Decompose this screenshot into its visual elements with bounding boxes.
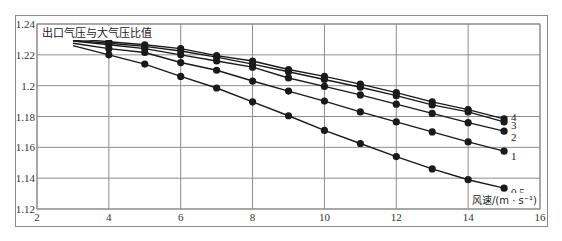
chart-title: 出口气压与大气压比值 (42, 26, 152, 40)
y-axis-ticks: 1.121.141.161.181.21.221.24 (16, 18, 36, 215)
data-point-marker (500, 185, 507, 192)
data-point-marker (285, 112, 292, 119)
data-point-marker (321, 127, 328, 134)
data-point-marker (393, 153, 400, 160)
x-tick-label: 6 (178, 211, 184, 223)
data-point-marker (357, 84, 364, 91)
data-point-marker (357, 91, 364, 98)
data-point-marker (177, 59, 184, 66)
data-point-marker (393, 92, 400, 99)
data-point-marker (465, 138, 472, 145)
data-point-marker (285, 87, 292, 94)
x-axis-label: 风速/(m · s⁻¹) (472, 195, 537, 206)
y-tick-label: 1.18 (16, 111, 36, 123)
data-point-marker (321, 97, 328, 104)
series-line (73, 43, 504, 151)
y-tick-label: 1.16 (16, 141, 36, 153)
data-point-marker (213, 57, 220, 64)
x-tick-label: 14 (463, 211, 475, 223)
data-point-marker (141, 60, 148, 67)
series-group (73, 38, 508, 192)
data-point-marker (321, 83, 328, 90)
data-point-marker (357, 108, 364, 115)
series-label: 3 (511, 119, 517, 131)
y-tick-label: 1.12 (16, 203, 35, 215)
data-point-marker (213, 67, 220, 74)
series-labels: 43210.5 (511, 111, 525, 198)
data-point-marker (429, 165, 436, 172)
data-point-marker (177, 73, 184, 80)
x-tick-label: 4 (106, 211, 112, 223)
data-point-marker (500, 148, 507, 155)
data-point-marker (213, 84, 220, 91)
data-point-marker (500, 118, 507, 125)
y-tick-label: 1.2 (21, 80, 35, 92)
x-tick-label: 2 (34, 211, 40, 223)
data-point-marker (465, 119, 472, 126)
x-tick-label: 12 (391, 211, 402, 223)
data-point-marker (285, 74, 292, 81)
y-tick-label: 1.22 (16, 49, 35, 61)
data-point-marker (393, 118, 400, 125)
data-point-marker (249, 98, 256, 105)
y-tick-label: 1.24 (16, 18, 36, 30)
data-point-marker (141, 49, 148, 56)
data-point-marker (465, 108, 472, 115)
chart-canvas: 1.121.141.161.181.21.221.24 246810121416… (0, 0, 562, 241)
data-point-marker (249, 64, 256, 71)
series-label: 2 (511, 131, 516, 143)
data-point-marker (393, 101, 400, 108)
x-tick-label: 16 (535, 211, 547, 223)
x-axis-ticks: 246810121416 (34, 211, 546, 223)
series-label: 1 (511, 150, 516, 162)
data-point-marker (429, 128, 436, 135)
data-point-marker (249, 77, 256, 84)
data-point-marker (357, 140, 364, 147)
data-point-marker (429, 110, 436, 117)
data-point-marker (429, 101, 436, 108)
data-point-marker (321, 76, 328, 83)
x-tick-label: 10 (319, 211, 331, 223)
data-point-marker (500, 128, 507, 135)
data-point-marker (285, 68, 292, 75)
y-tick-label: 1.14 (16, 172, 36, 184)
data-point-marker (177, 51, 184, 58)
x-tick-label: 8 (250, 211, 256, 223)
data-point-marker (465, 176, 472, 183)
data-point-marker (105, 51, 112, 58)
data-point-marker (105, 45, 112, 52)
